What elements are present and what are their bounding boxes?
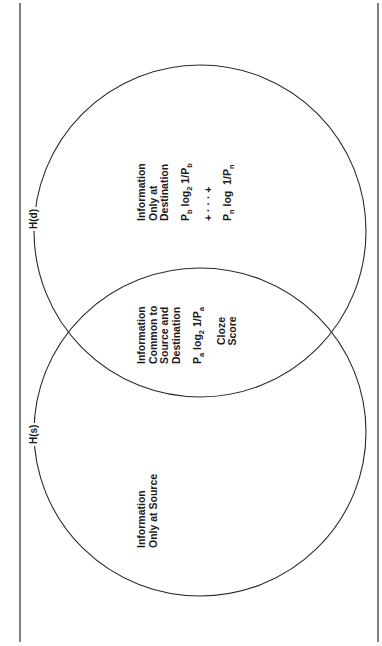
formula-p-subscript: b [185, 209, 194, 214]
destination-formula-2: Pn log 1/Pn [222, 163, 238, 221]
cloze-score-line-2: Score [227, 298, 239, 364]
destination-ellipsis: + · · · + [203, 163, 215, 221]
formula-p: P [179, 214, 191, 221]
formula-inverse: 1/P [221, 169, 233, 185]
formula-p: P [221, 214, 233, 221]
source-set-label-text: H(s) [28, 425, 39, 444]
destination-formula-1: Pb log2 1/Pb [180, 163, 196, 221]
destination-set-label: H(d) [28, 207, 39, 231]
formula-log: log [191, 334, 203, 350]
formula-p-subscript: a [197, 353, 206, 357]
formula-p: P [191, 357, 203, 364]
destination-only-region: Information Only at Destination Pb log2 … [136, 163, 237, 221]
destination-title-line-1: Information [136, 163, 148, 221]
formula-log-base: 2 [197, 330, 206, 334]
venn-diagram-figure: H(d) H(s) Information Only at Destinatio… [0, 0, 382, 646]
formula-log-base: 2 [185, 187, 194, 191]
common-title-line-4: Destination [171, 298, 183, 364]
formula-inverse-subscript: b [185, 163, 194, 168]
destination-set-label-text: H(d) [28, 209, 39, 229]
source-only-region: Information Only at Source [136, 474, 159, 548]
common-region: Information Common to Source and Destina… [136, 298, 239, 364]
formula-inverse: 1/P [179, 168, 191, 184]
source-set-label: H(s) [28, 423, 39, 446]
common-title-line-1: Information [136, 298, 148, 364]
formula-log: log [179, 191, 191, 207]
formula-inverse-subscript: n [227, 165, 236, 170]
formula-log: log [221, 191, 233, 207]
common-formula: Pa log2 1/Pa [192, 298, 208, 364]
formula-inverse-subscript: a [197, 307, 206, 311]
source-title-line-2: Only at Source [148, 474, 160, 548]
formula-inverse: 1/P [191, 311, 203, 327]
formula-p-subscript: n [227, 209, 236, 214]
destination-title-line-3: Destination [159, 163, 171, 221]
source-title-line-1: Information [136, 474, 148, 548]
